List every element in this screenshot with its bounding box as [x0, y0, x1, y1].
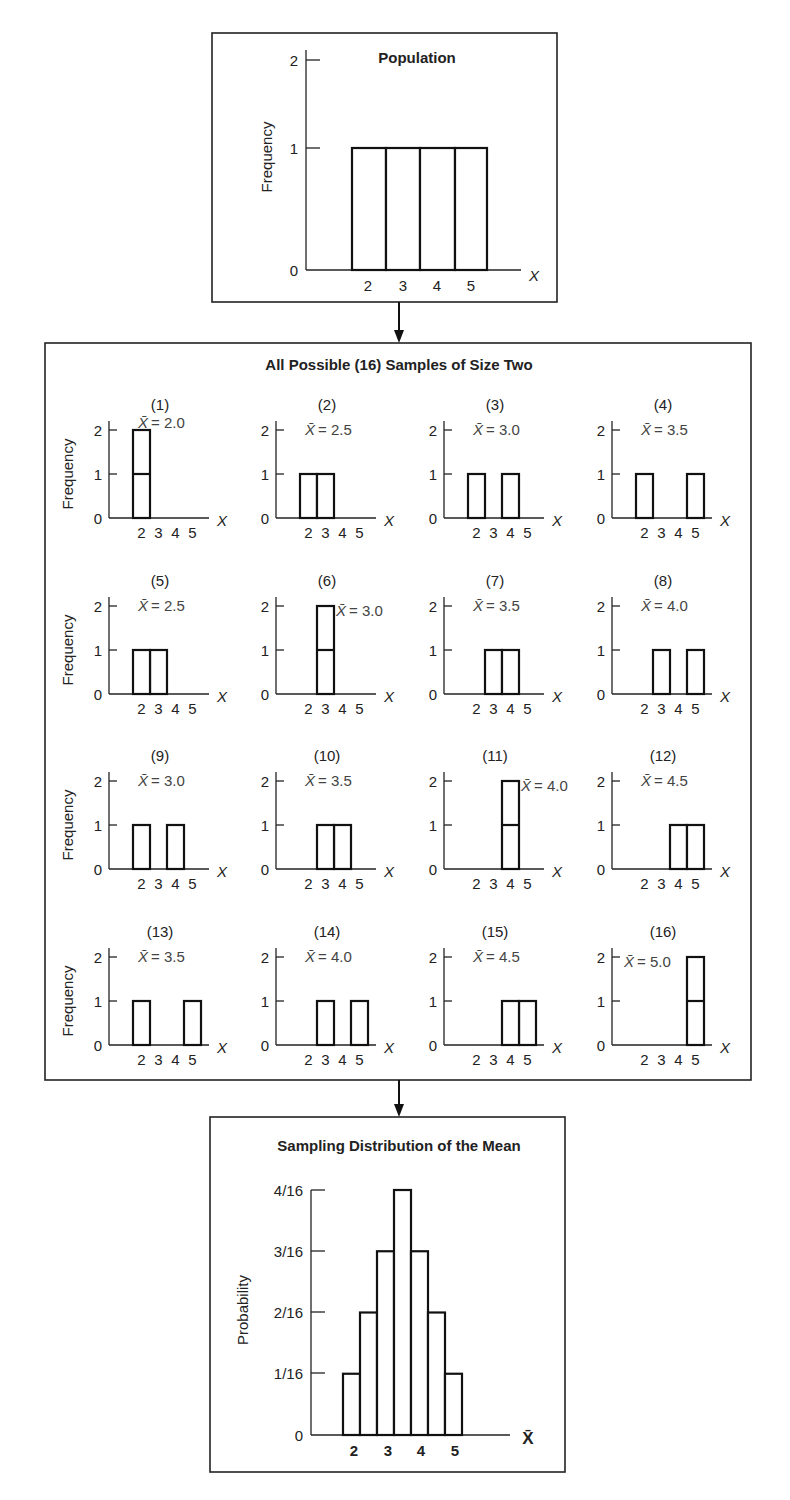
ytick-label: 2 [261, 598, 269, 615]
xtick-label: 3 [657, 524, 665, 541]
xtick-label: 3 [154, 875, 162, 892]
xtick-label: 3 [154, 524, 162, 541]
ytick-label: 0 [94, 1037, 102, 1054]
population-bar-3 [386, 148, 420, 270]
xtick-label: 3 [657, 1051, 665, 1068]
figure: Population Frequency 0 1 2 2 3 4 5 X All… [0, 0, 790, 1500]
sample-chart: 0122345XFrequency(9)X̄= 3.0 [59, 747, 228, 892]
sample-label: (15) [482, 923, 509, 940]
sample-label: (14) [314, 923, 341, 940]
ytick-label: 0 [597, 686, 605, 703]
xtick-label: 2 [640, 1051, 648, 1068]
ytick-label: 0 [597, 861, 605, 878]
ytick-label: 0 [261, 1037, 269, 1054]
ytick-label: 1 [94, 817, 102, 834]
xtick-label: 3 [489, 875, 497, 892]
ylabel: Frequency [59, 614, 76, 685]
ytick-label: 1 [597, 642, 605, 659]
ytick-label: 1 [261, 993, 269, 1010]
xtick-label: 5 [691, 700, 699, 717]
sampling-bar [445, 1374, 462, 1435]
sample-mean: X̄= 2.0 [137, 414, 185, 431]
xtick-label: 4 [674, 875, 682, 892]
xtick-label: 5 [188, 1051, 196, 1068]
ytick-label: 1 [261, 817, 269, 834]
xtick-label: 5 [355, 875, 363, 892]
ytick-label: 2 [429, 949, 437, 966]
bar [502, 650, 519, 694]
sample-label: (8) [654, 572, 672, 589]
xlabel: X [216, 1039, 228, 1056]
xtick-label: 3 [657, 875, 665, 892]
xtick-label: 5 [355, 524, 363, 541]
sample-mean: X̄= 4.0 [520, 777, 568, 794]
xtick-label: 2 [640, 524, 648, 541]
sample-label: (4) [654, 396, 672, 413]
xtick-label: 2 [137, 1051, 145, 1068]
xtick-label: 5 [523, 1051, 531, 1068]
ytick-label: 0 [429, 861, 437, 878]
population-panel: Population Frequency 0 1 2 2 3 4 5 X [212, 33, 557, 302]
ytick-label: 2 [429, 598, 437, 615]
xtick-label: 2 [472, 875, 480, 892]
xlabel: X [551, 1039, 563, 1056]
xtick-label: 3 [321, 524, 329, 541]
bar [636, 474, 653, 518]
ytick-label: 1 [94, 642, 102, 659]
xtick-label: 5 [188, 700, 196, 717]
ytick-label: 0 [429, 510, 437, 527]
population-bar-5 [455, 148, 487, 270]
ylabel: Frequency [59, 789, 76, 860]
xtick-label: 3 [489, 700, 497, 717]
sample-chart: 0122345X(14)X̄= 4.0 [261, 923, 395, 1068]
population-xtick-4: 4 [433, 277, 441, 294]
population-xtick-3: 3 [399, 277, 407, 294]
sampling-ytick-1: 1/16 [274, 1365, 303, 1382]
xtick-label: 4 [338, 524, 346, 541]
sample-chart: 0122345X(12)X̄= 4.5 [597, 747, 731, 892]
sample-mean: X̄= 3.5 [137, 948, 185, 965]
ytick-label: 1 [597, 817, 605, 834]
sampling-ytick-4: 4/16 [274, 1182, 303, 1199]
population-ytick-1: 1 [290, 140, 298, 157]
xtick-label: 2 [304, 524, 312, 541]
xtick-label: 3 [154, 700, 162, 717]
xtick-label: 2 [137, 875, 145, 892]
bar [687, 650, 704, 694]
arrow-down-icon [394, 302, 404, 343]
xlabel: X [719, 688, 731, 705]
xtick-label: 3 [657, 700, 665, 717]
xtick-label: 4 [338, 1051, 346, 1068]
sampling-ytick-0: 0 [295, 1427, 303, 1444]
bar [317, 1001, 334, 1045]
sampling-bar [343, 1374, 360, 1435]
sample-mean: X̄= 4.5 [640, 772, 688, 789]
ytick-label: 1 [94, 993, 102, 1010]
xtick-label: 2 [137, 700, 145, 717]
sample-chart: 0122345X(7)X̄= 3.5 [429, 572, 563, 717]
bar [687, 474, 704, 518]
xtick-label: 2 [640, 875, 648, 892]
sampling-xtick-5: 5 [451, 1442, 459, 1459]
ytick-label: 0 [429, 686, 437, 703]
bar [334, 825, 351, 869]
xtick-label: 3 [154, 1051, 162, 1068]
xlabel: X [216, 512, 228, 529]
sampling-bar [394, 1190, 411, 1435]
ytick-label: 0 [429, 1037, 437, 1054]
population-bar-2 [352, 148, 386, 270]
xtick-label: 5 [691, 524, 699, 541]
ytick-label: 1 [429, 817, 437, 834]
sampling-bar [360, 1313, 377, 1436]
bar [150, 650, 167, 694]
sample-label: (6) [318, 572, 336, 589]
sample-mean: X̄= 4.0 [640, 597, 688, 614]
sampling-bar [428, 1313, 445, 1436]
ytick-label: 2 [94, 598, 102, 615]
bar [502, 1001, 519, 1045]
xlabel: X [383, 863, 395, 880]
xtick-label: 4 [171, 875, 179, 892]
bar [133, 1001, 150, 1045]
ytick-label: 2 [597, 773, 605, 790]
xtick-label: 2 [472, 700, 480, 717]
